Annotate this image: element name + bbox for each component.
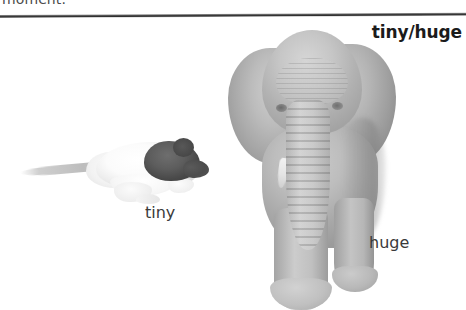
elephant-trunk (286, 100, 330, 250)
caption-huge: huge (369, 233, 409, 252)
rat-ear (173, 138, 194, 157)
figure-page: moment. tiny/huge tiny huge (0, 0, 466, 310)
rat-snout (183, 160, 209, 178)
elephant-right-eye (332, 102, 343, 110)
horizontal-rule (0, 13, 466, 18)
elephant-forehead-wrinkles (276, 58, 348, 104)
rat-image (18, 138, 208, 210)
elephant-left-foot (270, 278, 332, 310)
running-text: moment. (2, 0, 66, 7)
elephant-image (228, 28, 396, 310)
caption-tiny: tiny (145, 203, 175, 222)
elephant-right-foot (332, 266, 378, 292)
elephant-left-eye (276, 104, 287, 112)
